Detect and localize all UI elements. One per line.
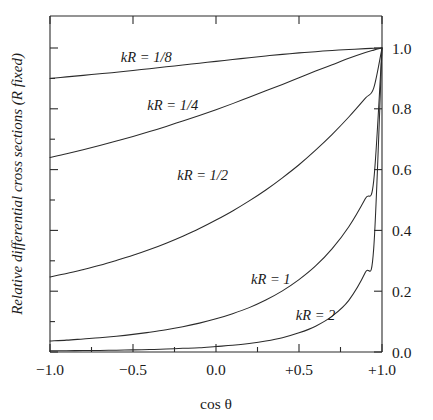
y-tick-label: 0.0: [392, 344, 412, 361]
cross-section-chart: kR = 1/8kR = 1/4kR = 1/2kR = 1kR = 2 −1.…: [0, 0, 433, 420]
y-tick-label: 1.0: [392, 40, 412, 57]
x-tick-label: +0.5: [285, 361, 313, 378]
x-tick-label: 0.0: [206, 361, 226, 378]
y-tick-label: 0.8: [392, 100, 412, 117]
curve-label-4: kR = 1: [251, 271, 291, 287]
curve-label-3: kR = 1/2: [177, 167, 228, 183]
y-tick-label: 0.6: [392, 161, 412, 178]
curve-label-1: kR = 1/8: [121, 49, 173, 65]
x-tick-label: −0.5: [119, 361, 147, 378]
y-tick-label: 0.2: [392, 283, 411, 300]
curve-label-5: kR = 2: [296, 307, 336, 323]
x-axis-title: cos θ: [200, 395, 232, 412]
figure-container: kR = 1/8kR = 1/4kR = 1/2kR = 1kR = 2 −1.…: [0, 0, 433, 420]
y-axis-title: Relative differential cross sections (R …: [9, 53, 26, 316]
x-tick-label: +1.0: [368, 361, 396, 378]
curve-label-2: kR = 1/4: [147, 97, 198, 113]
chart-background: [0, 0, 433, 420]
x-tick-label: −1.0: [36, 361, 64, 378]
y-tick-label: 0.4: [392, 222, 412, 239]
